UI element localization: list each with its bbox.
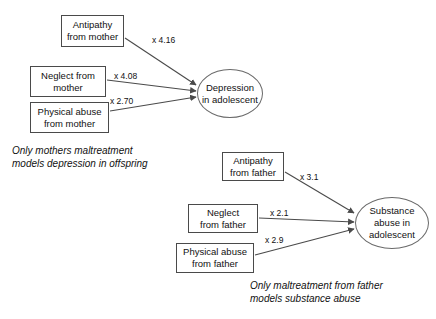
node-physical-abuse-from-mother[interactable]: Physical abusefrom mother (30, 102, 109, 133)
edge-e4 (285, 172, 354, 213)
node-label: Physical abusefrom mother (38, 106, 102, 130)
edge-label-antipathy-father-substance: x 3.1 (300, 172, 318, 182)
node-label: Neglect frommother (41, 70, 95, 94)
node-neglect-from-father[interactable]: Neglectfrom father (188, 204, 258, 233)
node-label: Antipathyfrom father (230, 155, 276, 179)
node-antipathy-from-father[interactable]: Antipathyfrom father (222, 152, 284, 181)
node-antipathy-from-mother[interactable]: Antipathyfrom mother (61, 15, 124, 47)
node-neglect-from-mother[interactable]: Neglect frommother (30, 66, 106, 97)
edge-e5 (259, 218, 354, 222)
edge-label-neglect-father-substance: x 2.1 (270, 208, 288, 218)
caption-father-model: Only maltreatment from father models sub… (250, 279, 383, 305)
node-label: Substanceabuse inadolescent (369, 205, 415, 241)
edge-label-antipathy-mother-depression: x 4.16 (152, 35, 175, 45)
edge-label-physical-abuse-mother-depression: x 2.70 (110, 96, 133, 106)
edge-label-physical-abuse-father-substance: x 2.9 (265, 235, 283, 245)
node-substance-abuse-in-adolescent[interactable]: Substanceabuse inadolescent (355, 197, 429, 249)
node-label: Antipathyfrom mother (67, 19, 118, 43)
node-label: Physical abusefrom father (183, 246, 247, 270)
path-diagram: Antipathyfrom mother Neglect frommother … (0, 0, 436, 319)
node-label: Depressionin adolescent (202, 82, 258, 106)
edge-label-neglect-mother-depression: x 4.08 (114, 71, 137, 81)
edge-e2 (107, 80, 196, 91)
caption-mother-model: Only mothers maltreatment models depress… (12, 144, 148, 170)
node-physical-abuse-from-father[interactable]: Physical abusefrom father (176, 243, 254, 273)
node-depression-in-adolescent[interactable]: Depressionin adolescent (197, 69, 263, 118)
node-label: Neglectfrom father (200, 207, 246, 231)
